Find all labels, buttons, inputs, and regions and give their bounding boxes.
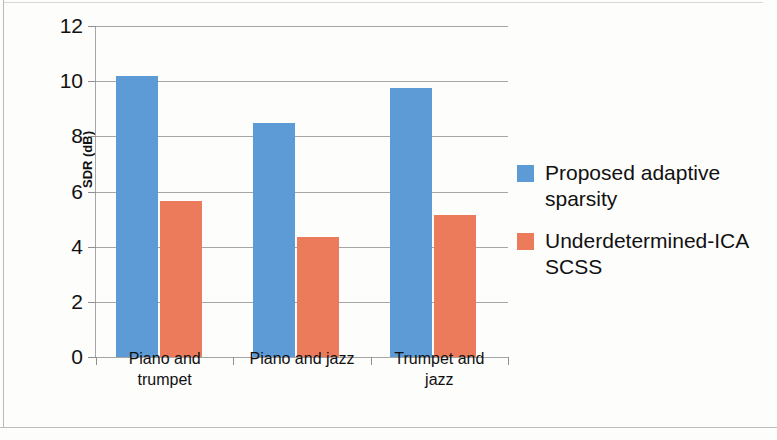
legend-swatch-icon <box>517 233 534 250</box>
category-label-line: jazz <box>371 369 508 390</box>
legend-item: Proposed adaptivesparsity <box>517 160 767 212</box>
bar <box>160 201 202 357</box>
chart-legend: Proposed adaptivesparsityUnderdetermined… <box>517 160 767 296</box>
bar-chart-figure: SDR (dB) 024681012 Piano andtrumpetPiano… <box>0 0 777 440</box>
bar <box>390 88 432 357</box>
category-label-line: trumpet <box>96 369 233 390</box>
y-axis-tick-label: 8 <box>71 124 83 148</box>
legend-label-line: sparsity <box>545 186 720 212</box>
legend-label-line: SCSS <box>545 254 749 280</box>
y-axis-tick <box>88 357 96 358</box>
legend-label-line: Proposed adaptive <box>545 160 720 186</box>
y-axis-tick <box>88 247 96 248</box>
y-axis-tick <box>88 136 96 137</box>
y-axis-tick <box>88 81 96 82</box>
category-label-line: Piano and <box>96 348 233 369</box>
category-label-line: Trumpet and <box>371 348 508 369</box>
legend-label: Underdetermined-ICASCSS <box>545 228 749 280</box>
y-axis-tick <box>88 192 96 193</box>
x-axis-tick <box>508 357 509 365</box>
gridline <box>96 136 508 137</box>
legend-swatch-icon <box>517 165 534 182</box>
x-axis-category-label: Trumpet andjazz <box>371 348 508 390</box>
category-label-line: Piano and jazz <box>233 348 370 369</box>
y-axis-tick-label: 2 <box>71 289 83 313</box>
bar <box>297 237 339 357</box>
y-axis-tick-label: 6 <box>71 179 83 203</box>
bar <box>434 215 476 357</box>
legend-item: Underdetermined-ICASCSS <box>517 228 767 280</box>
y-axis-title: SDR (dB) <box>80 95 95 225</box>
y-axis-tick <box>88 302 96 303</box>
y-axis-tick <box>88 26 96 27</box>
gridline <box>96 26 508 27</box>
figure-frame-left <box>3 0 4 428</box>
bar <box>253 123 295 357</box>
y-axis-tick-label: 12 <box>60 14 83 38</box>
gridline <box>96 81 508 82</box>
x-axis-category-label: Piano andtrumpet <box>96 348 233 390</box>
legend-label: Proposed adaptivesparsity <box>545 160 720 212</box>
y-axis-tick-label: 4 <box>71 234 83 258</box>
y-axis-tick-label: 0 <box>71 345 83 369</box>
x-axis-category-label: Piano and jazz <box>233 348 370 369</box>
plot-area: 024681012 <box>96 26 508 357</box>
figure-frame-top <box>3 2 763 3</box>
gridline <box>96 192 508 193</box>
legend-label-line: Underdetermined-ICA <box>545 228 749 254</box>
figure-frame-bottom <box>0 427 777 428</box>
y-axis-tick-label: 10 <box>60 69 83 93</box>
bar <box>116 76 158 357</box>
